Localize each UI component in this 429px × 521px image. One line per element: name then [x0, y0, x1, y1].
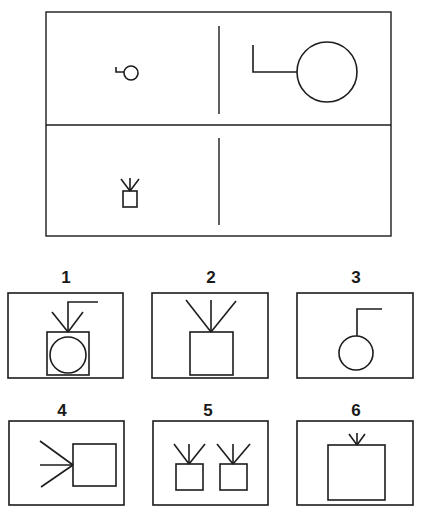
cell-top-right-hook-line — [253, 45, 297, 72]
answer-option-4[interactable] — [9, 421, 124, 505]
analogy-matrix — [46, 12, 391, 236]
option-number-label: 5 — [188, 402, 228, 419]
option-frame[interactable] — [8, 293, 123, 378]
matrix-cell-top-right — [253, 42, 357, 102]
option-frame[interactable] — [153, 421, 268, 505]
option-number-label: 3 — [336, 269, 376, 286]
matrix-cell-bottom-left — [121, 178, 139, 207]
answer-option-5[interactable] — [153, 421, 268, 505]
cell-top-left-hook-line — [116, 67, 124, 72]
option-frame[interactable] — [152, 293, 268, 378]
matrix-cell-top-left — [116, 66, 138, 80]
answer-option-2[interactable] — [152, 293, 268, 378]
answer-option-3[interactable] — [297, 293, 413, 378]
cell-bottom-left-ray-line — [130, 179, 139, 191]
option-number-label: 6 — [336, 402, 376, 419]
option-frame[interactable] — [9, 421, 124, 505]
answer-option-6[interactable] — [297, 421, 413, 505]
option-number-label: 2 — [191, 269, 231, 286]
option-number-label: 4 — [42, 402, 82, 419]
option-number-label: 1 — [46, 269, 86, 286]
answer-options — [8, 293, 413, 505]
cell-bottom-left-ray-line — [121, 179, 130, 191]
answer-option-1[interactable] — [8, 293, 123, 378]
cell-top-right-circle-shape — [297, 42, 357, 102]
cell-top-left-circle-shape — [124, 66, 138, 80]
option-frame[interactable] — [297, 421, 413, 505]
cell-bottom-left-square-shape — [123, 191, 137, 207]
puzzle-canvas — [0, 0, 429, 521]
